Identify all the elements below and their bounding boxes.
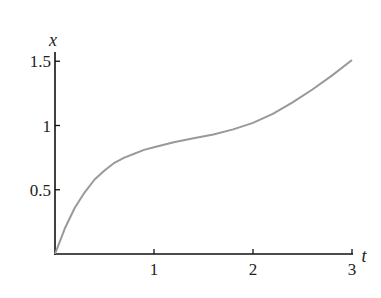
y-tick-label: 1 (43, 117, 52, 136)
y-tick-label: 0.5 (30, 181, 51, 200)
x-tick-label: 3 (348, 260, 357, 279)
x-tick-label: 2 (249, 260, 258, 279)
axes (54, 52, 353, 255)
y-axis-label: x (48, 30, 57, 50)
chart: 0.511.5 123 x t (0, 0, 381, 298)
data-line (55, 60, 352, 254)
x-tick-label: 1 (150, 260, 159, 279)
y-tick-label: 1.5 (30, 52, 51, 71)
x-axis-label: t (361, 246, 367, 266)
